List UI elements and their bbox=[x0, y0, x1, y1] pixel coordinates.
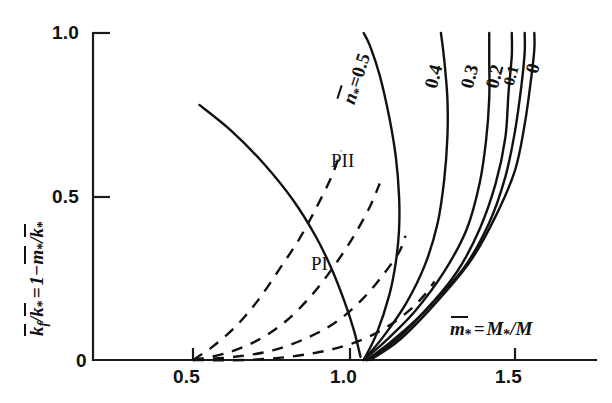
x-title-star-1: * bbox=[465, 327, 472, 342]
y-tick-label-1p0: 1.0 bbox=[52, 22, 79, 44]
x-title-equals: = bbox=[472, 318, 487, 339]
y-title-m: m bbox=[26, 250, 47, 265]
figure-root: 1.0 0.5 0 0.5 1.0 1.5 kf/k*=1−m*/k* m*=M… bbox=[0, 0, 612, 403]
x-title-M: M bbox=[486, 318, 503, 339]
x-title-M2: M bbox=[515, 318, 532, 339]
x-tick-label-1p5: 1.5 bbox=[495, 366, 522, 388]
x-axis-title: m*=M*/M bbox=[450, 318, 532, 343]
origin-label: 0 bbox=[76, 350, 87, 372]
y-title-k3: k bbox=[26, 228, 47, 238]
y-title-star-3: * bbox=[35, 221, 50, 228]
y-title-star-1: * bbox=[35, 300, 50, 307]
y-title-k: k bbox=[26, 327, 47, 337]
y-title-k2: k bbox=[26, 307, 47, 317]
curve-pii-boundary bbox=[199, 105, 360, 357]
y-tick-label-0p5: 0.5 bbox=[52, 186, 79, 208]
region-label-pi: PI bbox=[311, 253, 328, 275]
y-title-kstar-2-group: k* bbox=[26, 221, 51, 237]
y-title-minus: − bbox=[26, 264, 47, 276]
y-title-one: 1 bbox=[26, 276, 47, 286]
y-title-kf-group: kf bbox=[26, 322, 51, 336]
region-label-pii: PII bbox=[331, 150, 354, 172]
y-title-mstar-group: m* bbox=[26, 243, 51, 265]
y-title-kstar-1-group: k* bbox=[26, 300, 51, 316]
curve-pi-boundary-b bbox=[193, 183, 380, 360]
x-title-m: m bbox=[450, 318, 465, 339]
x-tick-label-1p0: 1.0 bbox=[330, 366, 357, 388]
x-title-mstar-group: m* bbox=[450, 318, 472, 343]
y-axis-title: kf/k*=1−m*/k* bbox=[26, 221, 51, 336]
y-title-equals: = bbox=[26, 285, 47, 300]
x-tick-label-0p5: 0.5 bbox=[173, 366, 200, 388]
y-title-sub-f: f bbox=[35, 322, 50, 327]
y-title-star-2: * bbox=[35, 243, 50, 250]
